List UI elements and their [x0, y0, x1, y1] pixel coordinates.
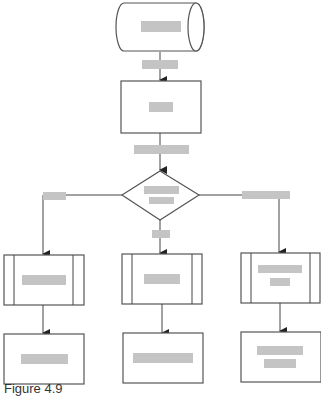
node-subprocess-right-label-line1 — [258, 265, 302, 273]
node-end-left — [4, 334, 84, 384]
edge-label-1 — [142, 60, 178, 69]
node-subprocess-left-label — [22, 275, 66, 285]
node-subprocess-right-label-line2 — [270, 278, 290, 286]
edge-label-right — [242, 191, 290, 199]
node-process1 — [121, 81, 201, 133]
node-decision-label-line2 — [149, 197, 174, 204]
node-subprocess-right — [241, 253, 320, 303]
edge-label-2 — [134, 145, 189, 154]
node-decision-label-line1 — [144, 186, 179, 194]
node-process1-label — [149, 102, 173, 112]
edge-decision-to-right — [199, 191, 290, 252]
node-end-right-label-line2 — [264, 359, 296, 368]
edge-label-left — [43, 192, 66, 200]
node-subprocess-left — [4, 255, 84, 305]
edge-process1-to-decision — [134, 133, 189, 170]
node-subprocess-mid-label — [144, 274, 180, 284]
edge-decision-to-left — [43, 192, 122, 254]
figure-caption: Figure 4.9 — [4, 381, 63, 396]
edge-label-mid — [152, 230, 170, 238]
node-end-right — [241, 332, 321, 382]
node-end-mid-label — [133, 353, 193, 363]
edge-start-to-process1 — [142, 52, 178, 80]
node-end-mid — [123, 333, 203, 383]
node-start-label — [141, 21, 181, 32]
node-decision — [122, 171, 199, 220]
node-end-right-label-line1 — [257, 346, 303, 355]
node-subprocess-mid — [122, 254, 202, 304]
node-end-left-label — [21, 354, 68, 364]
node-start-cylinder — [116, 3, 204, 51]
edge-decision-to-mid — [152, 220, 170, 253]
